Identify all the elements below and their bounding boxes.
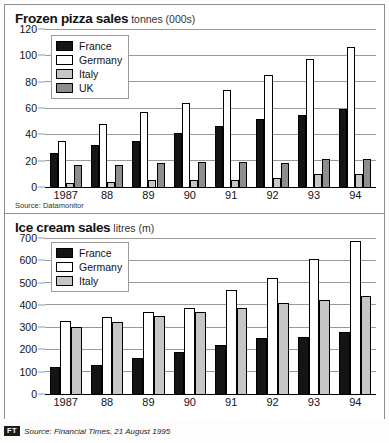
panel-unit-frozen-pizza: tonnes (000s) xyxy=(131,13,195,25)
bar-group-89 xyxy=(132,29,164,187)
chart-page: Frozen pizza salestonnes (000s) 02040608… xyxy=(0,0,389,443)
x-axis-label-91: 91 xyxy=(225,396,237,408)
y-tick-mark-0 xyxy=(38,394,45,395)
bar-germany-92 xyxy=(264,75,272,187)
bar-france-91 xyxy=(215,345,226,394)
legend-label-germany: Germany xyxy=(79,54,122,66)
x-axis-label-94: 94 xyxy=(349,189,361,201)
bar-uk-1987 xyxy=(74,165,82,187)
bar-uk-89 xyxy=(157,163,165,187)
bar-germany-88 xyxy=(102,317,113,394)
bar-france-90 xyxy=(174,352,185,394)
y-tick-label-700: 700 xyxy=(19,232,37,244)
bar-group-89 xyxy=(132,238,164,394)
bar-uk-90 xyxy=(198,162,206,187)
legend-row-france[interactable]: France xyxy=(56,246,122,260)
y-tick-mark-600 xyxy=(38,260,45,261)
y-tick-label-40: 40 xyxy=(25,128,37,140)
y-tick-label-600: 600 xyxy=(19,254,37,266)
bar-group-92 xyxy=(256,238,288,394)
bar-germany-88 xyxy=(99,124,107,187)
bar-france-88 xyxy=(91,145,99,187)
bar-italy-93 xyxy=(319,300,330,394)
bar-france-1987 xyxy=(50,153,58,187)
y-tick-mark-100 xyxy=(38,55,45,56)
legend-row-italy[interactable]: Italy xyxy=(56,274,122,288)
y-tick-mark-0 xyxy=(38,187,45,188)
bar-group-90 xyxy=(174,238,206,394)
bar-italy-90 xyxy=(195,312,206,394)
y-tick-mark-700 xyxy=(38,238,45,239)
legend-row-france[interactable]: France xyxy=(56,39,122,53)
bar-italy-94 xyxy=(361,296,372,394)
y-tick-mark-120 xyxy=(38,29,45,30)
bar-group-94 xyxy=(339,238,371,394)
bar-germany-94 xyxy=(350,241,361,394)
x-axis-label-92: 92 xyxy=(266,189,278,201)
x-axis-label-89: 89 xyxy=(142,396,154,408)
legend-row-italy[interactable]: Italy xyxy=(56,67,122,81)
bar-germany-89 xyxy=(140,112,148,187)
footer-source-text: Source: Financial Times, 21 August 1995 xyxy=(24,427,170,436)
x-axis-label-90: 90 xyxy=(184,189,196,201)
bar-italy-90 xyxy=(190,180,198,187)
legend-swatch-italy xyxy=(56,276,73,286)
bar-italy-1987 xyxy=(71,327,82,394)
y-tick-label-0: 0 xyxy=(31,388,37,400)
legend-row-germany[interactable]: Germany xyxy=(56,53,122,67)
chart-frame: Frozen pizza salestonnes (000s) 02040608… xyxy=(4,4,385,419)
bar-uk-94 xyxy=(363,159,371,187)
legend-swatch-france xyxy=(56,248,73,258)
legend-label-france: France xyxy=(79,40,112,52)
bar-italy-91 xyxy=(231,180,239,187)
bar-group-94 xyxy=(339,29,371,187)
y-tick-label-100: 100 xyxy=(19,366,37,378)
bar-france-91 xyxy=(215,126,223,187)
y-tick-mark-100 xyxy=(38,371,45,372)
footer: FT Source: Financial Times, 21 August 19… xyxy=(4,424,385,438)
bar-uk-92 xyxy=(281,163,289,187)
bar-uk-91 xyxy=(239,162,247,187)
x-axis-label-89: 89 xyxy=(142,189,154,201)
bar-italy-88 xyxy=(107,182,115,187)
bar-italy-1987 xyxy=(66,183,74,187)
x-axis-label-93: 93 xyxy=(308,396,320,408)
legend-frozen-pizza: FranceGermanyItalyUK xyxy=(51,35,129,99)
bar-italy-92 xyxy=(278,303,289,394)
y-tick-label-200: 200 xyxy=(19,343,37,355)
bar-germany-90 xyxy=(182,103,190,187)
bar-italy-94 xyxy=(355,174,363,187)
bar-italy-89 xyxy=(148,180,156,187)
bar-uk-88 xyxy=(115,165,123,187)
y-tick-label-100: 100 xyxy=(19,49,37,61)
y-tick-mark-400 xyxy=(38,304,45,305)
y-tick-label-120: 120 xyxy=(19,23,37,35)
y-tick-mark-500 xyxy=(38,282,45,283)
bar-germany-92 xyxy=(267,278,278,394)
legend-swatch-italy xyxy=(56,69,73,79)
bar-germany-91 xyxy=(226,290,237,394)
y-tick-mark-20 xyxy=(38,160,45,161)
legend-row-germany[interactable]: Germany xyxy=(56,260,122,274)
legend-ice-cream: FranceGermanyItaly xyxy=(51,242,129,292)
legend-swatch-uk xyxy=(56,83,73,93)
x-axis-label-1987: 1987 xyxy=(53,189,77,201)
y-tick-mark-200 xyxy=(38,349,45,350)
bar-france-1987 xyxy=(50,367,61,394)
bar-france-94 xyxy=(339,109,347,187)
x-axis-labels-ice-cream: 198788899091929394 xyxy=(45,396,376,410)
legend-swatch-germany xyxy=(56,262,73,272)
legend-label-italy: Italy xyxy=(79,68,98,80)
bar-italy-91 xyxy=(237,308,248,394)
legend-swatch-france xyxy=(56,41,73,51)
bar-germany-1987 xyxy=(60,321,71,394)
bar-group-91 xyxy=(215,29,247,187)
bar-uk-93 xyxy=(322,159,330,187)
bar-france-94 xyxy=(339,332,350,394)
bar-italy-88 xyxy=(112,322,123,394)
legend-row-uk[interactable]: UK xyxy=(56,81,122,95)
bar-italy-93 xyxy=(314,174,322,187)
y-tick-label-0: 0 xyxy=(31,181,37,193)
x-axis-label-88: 88 xyxy=(101,189,113,201)
bar-germany-89 xyxy=(143,312,154,394)
